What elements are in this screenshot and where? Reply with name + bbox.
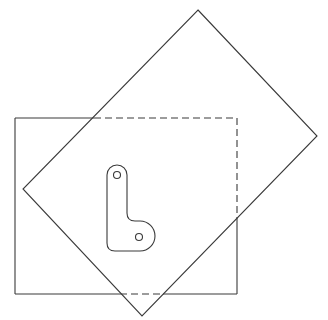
l-part-hole-bottom xyxy=(136,234,143,241)
l-part-hole-top xyxy=(114,172,121,179)
rotated-square-outline xyxy=(23,10,317,316)
l-shaped-part xyxy=(107,165,155,251)
diagram-canvas xyxy=(0,0,328,320)
square-outline xyxy=(15,118,237,294)
